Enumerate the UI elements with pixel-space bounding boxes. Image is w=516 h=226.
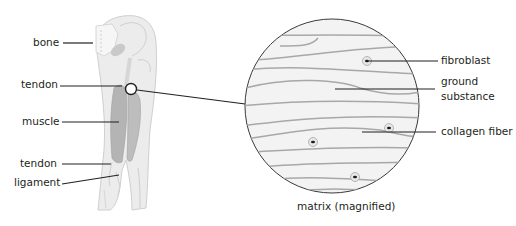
leg-illustration: [96, 16, 157, 210]
label-ground-substance-1: ground: [441, 75, 478, 88]
caption-matrix-magnified: matrix (magnified): [297, 200, 395, 213]
label-tendon-upper: tendon: [21, 78, 58, 91]
label-muscle: muscle: [22, 115, 60, 128]
connective-tissue-diagram: bone tendon muscle tendon ligament fibro…: [0, 0, 516, 226]
label-ligament: ligament: [14, 176, 60, 189]
label-tendon-lower: tendon: [20, 157, 57, 170]
label-ground-substance-2: substance: [441, 90, 495, 103]
label-fibroblast: fibroblast: [441, 54, 490, 67]
diagram-graphics: [0, 0, 516, 226]
label-bone: bone: [33, 36, 59, 49]
magnify-point: [126, 84, 137, 95]
label-collagen-fiber: collagen fiber: [441, 125, 513, 138]
matrix-magnified: [240, 19, 438, 193]
